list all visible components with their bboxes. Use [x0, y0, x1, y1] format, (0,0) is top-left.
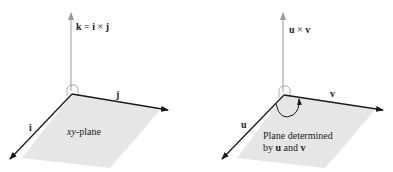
- plane-label: xy-plane: [66, 126, 101, 137]
- cross-product-diagram: k = i × j j i xy-plane u × v v u Plane d…: [0, 0, 393, 172]
- i-label: i: [29, 122, 32, 133]
- right-figure: u × v v u Plane determined by u and v: [222, 13, 383, 168]
- v-label: v: [330, 88, 335, 99]
- j-label: j: [115, 89, 119, 100]
- k-label: k = i × j: [76, 21, 109, 32]
- u-label: u: [241, 119, 247, 130]
- plane-label-line1: Plane determined: [263, 130, 333, 141]
- plane-label-line2: by u and v: [263, 142, 306, 153]
- u-cross-v-label: u × v: [289, 24, 310, 35]
- left-figure: k = i × j j i xy-plane: [10, 13, 168, 168]
